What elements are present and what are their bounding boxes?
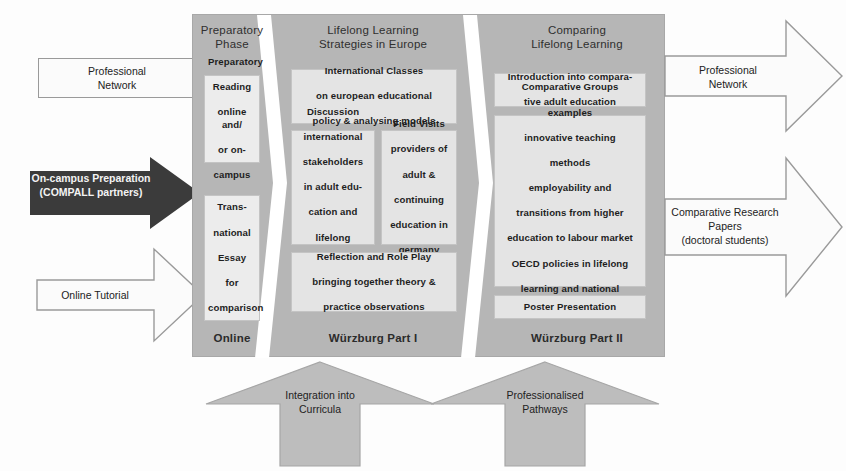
- column-footer-wuerzburg-part-2: Würzburg Part II: [488, 332, 666, 344]
- l7: OECD policies in lifelong: [498, 258, 642, 271]
- ba0-line1: Integration into: [285, 389, 354, 401]
- programme-panel: Preparatory Phase Preparatory Reading on…: [192, 14, 665, 357]
- l1: providers of: [385, 143, 453, 156]
- col0-title-line1: Preparatory: [201, 24, 263, 36]
- card-field-visits: Field Visits providers of adult & contin…: [381, 130, 457, 245]
- card-reflection-role-play: Reflection and Role Play bringing togeth…: [291, 252, 457, 312]
- l2: stakeholders: [295, 156, 371, 169]
- card-field-visits-text: Field Visits providers of adult & contin…: [385, 118, 453, 257]
- l5: lifelong: [295, 232, 371, 245]
- input-professional-network-label: Professional Network: [88, 64, 146, 92]
- l3: methods: [498, 157, 642, 170]
- l6: education to labour market: [498, 232, 642, 245]
- output-professional-network-label: Professional Network: [668, 63, 788, 91]
- on-campus-line1: On-campus Preparation: [31, 172, 150, 184]
- online-tutorial-text: Online Tutorial: [61, 289, 129, 301]
- col2-title-line2: Lifelong Learning: [531, 38, 623, 50]
- out-pn-line1: Professional: [699, 64, 757, 76]
- out-cp-line3: (doctoral students): [682, 234, 769, 246]
- card-preparatory-reading-text: Preparatory Reading online and/ or on- c…: [208, 56, 256, 182]
- card-poster-presentation: Poster Presentation: [494, 295, 646, 319]
- out-cp-line2: Papers: [708, 220, 741, 232]
- diagram-canvas: Professional Network On-campus Preparati…: [0, 0, 846, 471]
- column-lifelong-learning-strategies: Lifelong Learning Strategies in Europe I…: [283, 15, 463, 356]
- l4: cation and: [295, 206, 371, 219]
- card-transnational-essay: Trans- national Essay for comparison: [204, 195, 260, 321]
- column-comparing-lifelong-learning: Comparing Lifelong Learning Introduction…: [488, 15, 666, 356]
- l1: bringing together theory &: [295, 276, 453, 289]
- l1: Reading: [208, 81, 256, 94]
- l0: International Classes: [295, 65, 453, 78]
- card-comparative-groups-text: Comparative Groups examples innovative t…: [498, 81, 642, 320]
- l1: examples: [498, 107, 642, 120]
- col1-title-line1: Lifelong Learning: [327, 24, 419, 36]
- pn-line1: Professional: [88, 65, 146, 77]
- out-pn-line2: Network: [709, 78, 748, 90]
- out-cp-line1: Comparative Research: [671, 206, 778, 218]
- column-footer-online: Online: [193, 332, 271, 344]
- col1-footer-text: Würzburg Part I: [329, 332, 418, 344]
- l8: learning and national: [498, 283, 642, 296]
- l0: Comparative Groups: [498, 81, 642, 94]
- l3: for: [208, 277, 256, 290]
- card-discussion-stakeholders: Discussion international stakeholders in…: [291, 130, 375, 245]
- ba0-line2: Curricula: [299, 403, 341, 415]
- column-footer-wuerzburg-part-1: Würzburg Part I: [283, 332, 463, 344]
- column-title-preparatory-phase: Preparatory Phase: [193, 23, 271, 51]
- ba1-line2: Pathways: [522, 403, 568, 415]
- card-discussion-stakeholders-text: Discussion international stakeholders in…: [295, 106, 371, 270]
- input-on-campus-label: On-campus Preparation (COMPALL partners): [30, 171, 152, 199]
- card-poster-presentation-text: Poster Presentation: [498, 301, 642, 314]
- l2: adult &: [385, 169, 453, 182]
- bottom-arrow-integration-curricula-label: Integration into Curricula: [240, 388, 400, 416]
- output-comparative-papers-label: Comparative Research Papers (doctoral st…: [666, 205, 784, 247]
- l1: national: [208, 227, 256, 240]
- ba1-line1: Professionalised: [506, 389, 583, 401]
- l4: education in: [385, 219, 453, 232]
- l2: practice observations: [295, 301, 453, 314]
- col2-title-line1: Comparing: [548, 24, 606, 36]
- l4: employability and: [498, 182, 642, 195]
- l1: international: [295, 131, 371, 144]
- card-comparative-groups: Comparative Groups examples innovative t…: [494, 115, 646, 287]
- l0: Reflection and Role Play: [295, 251, 453, 264]
- input-online-tutorial-label: Online Tutorial: [36, 288, 154, 302]
- pn-line2: Network: [98, 79, 137, 91]
- l3: in adult edu-: [295, 181, 371, 194]
- col0-title-line2: Phase: [215, 38, 249, 50]
- col1-title-line2: Strategies in Europe: [319, 38, 427, 50]
- l1: on european educational: [295, 90, 453, 103]
- card-preparatory-reading: Preparatory Reading online and/ or on- c…: [204, 75, 260, 163]
- l0: Field Visits: [385, 118, 453, 131]
- on-campus-line2: (COMPALL partners): [40, 186, 143, 198]
- column-title-lifelong-strategies: Lifelong Learning Strategies in Europe: [283, 23, 463, 51]
- l0: Trans-: [208, 201, 256, 214]
- l3: continuing: [385, 194, 453, 207]
- l0: Preparatory: [208, 56, 256, 69]
- col2-footer-text: Würzburg Part II: [531, 332, 623, 344]
- l2: Essay: [208, 252, 256, 265]
- card-reflection-role-play-text: Reflection and Role Play bringing togeth…: [295, 251, 453, 314]
- col0-footer-text: Online: [214, 332, 251, 344]
- card-transnational-essay-text: Trans- national Essay for comparison: [208, 201, 256, 314]
- l5: transitions from higher: [498, 207, 642, 220]
- l2: online and/: [208, 106, 256, 131]
- l0: Discussion: [295, 106, 371, 119]
- l3: or on-: [208, 144, 256, 157]
- l4: campus: [208, 169, 256, 182]
- column-title-comparing-lifelong-learning: Comparing Lifelong Learning: [488, 23, 666, 51]
- bottom-arrow-professionalised-pathways-label: Professionalised Pathways: [465, 388, 625, 416]
- l2: innovative teaching: [498, 132, 642, 145]
- l4: comparison: [208, 302, 256, 315]
- input-professional-network: Professional Network: [38, 58, 196, 98]
- column-preparatory-phase: Preparatory Phase Preparatory Reading on…: [193, 15, 271, 356]
